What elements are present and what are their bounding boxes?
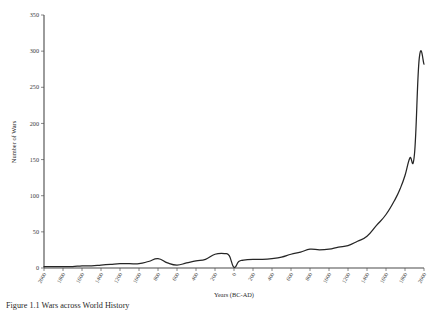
x-tick-label: 800 [304,271,313,281]
x-tick-label: 1200 [113,271,124,284]
x-axis-ticks: 2000180016001400120010008006004002000200… [37,268,428,284]
x-tick-label: 600 [285,271,294,281]
figure-container: 050100150200250300350 200018001600140012… [0,0,438,312]
y-tick-label: 200 [30,120,39,127]
wars-line-chart: 050100150200250300350 200018001600140012… [0,0,438,312]
x-tick-label: 400 [190,271,199,281]
x-tick-label: 1200 [341,271,352,284]
y-tick-label: 150 [30,156,39,163]
x-tick-label: 200 [209,271,218,281]
y-tick-label: 100 [30,192,39,199]
y-tick-label: 50 [33,228,39,235]
x-tick-label: 1800 [56,271,67,284]
y-axis-ticks: 050100150200250300350 [30,11,44,271]
x-tick-label: 800 [152,271,161,281]
figure-caption: Figure 1.1 Wars across World History [6,300,426,312]
x-tick-label: 1000 [132,271,143,284]
x-tick-label: 1400 [94,271,105,284]
y-tick-label: 0 [36,264,39,271]
x-tick-label: 400 [266,271,275,281]
y-tick-label: 250 [30,83,39,90]
x-tick-label: 1600 [379,271,390,284]
x-tick-label: 200 [247,271,256,281]
x-tick-label: 1000 [322,271,333,284]
y-tick-label: 350 [30,11,39,18]
x-tick-label: 600 [171,271,180,281]
y-axis-title: Number of Wars [10,120,17,163]
x-tick-label: 2000 [417,271,428,284]
x-tick-label: 2000 [37,271,48,284]
x-tick-label: 0 [231,271,238,277]
x-tick-label: 1600 [75,271,86,284]
x-axis-title: Years (BC-AD) [214,291,254,299]
x-tick-label: 1800 [398,271,409,284]
data-line-number-of-wars [44,51,424,268]
y-tick-label: 300 [30,47,39,54]
x-tick-label: 1400 [360,271,371,284]
